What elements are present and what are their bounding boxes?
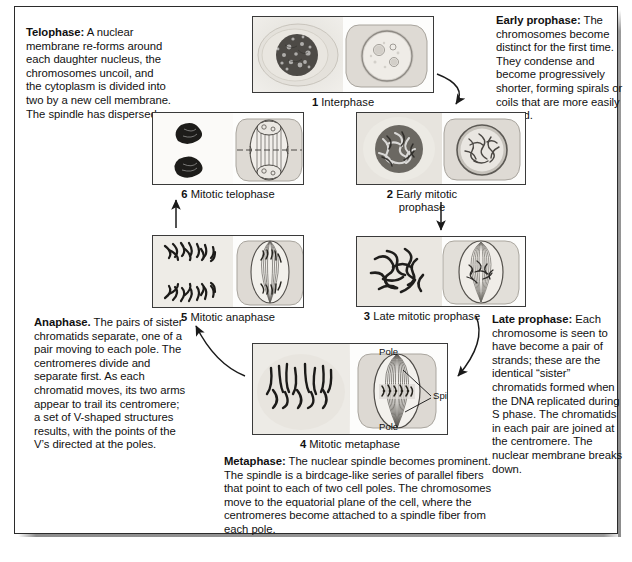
panel-6-number: 6: [181, 188, 187, 200]
label-spindle: Spindle: [433, 391, 448, 401]
panel-3-caption: 3 Late mitotic prophase: [362, 310, 482, 323]
panel-2-label: Early mitotic prophase: [396, 188, 457, 213]
panel-2-early-prophase: 2 Early mitotic prophase: [356, 112, 526, 214]
panel-6-artwork: [153, 113, 304, 185]
panel-1-label: Interphase: [321, 96, 374, 108]
panel-6-image: [152, 112, 304, 185]
text-late-prophase: Late prophase: Each chromosome is seen t…: [492, 313, 626, 476]
panel-4-image: Pole Pole Spindle: [252, 343, 448, 435]
text-anaphase: Anaphase. The pairs of sister chromatids…: [34, 316, 186, 452]
panel-6-telophase: 6 Mitotic telophase: [152, 112, 304, 201]
text-late-prophase-body: Each chromosome is seen to have become a…: [492, 313, 622, 475]
panel-5-number: 5: [181, 311, 187, 323]
panel-4-label: Mitotic metaphase: [309, 438, 400, 450]
panel-2-image: [356, 112, 526, 185]
panel-2-number: 2: [387, 188, 393, 200]
panel-4-caption: 4 Mitotic metaphase: [252, 438, 448, 451]
panel-5-caption: 5 Mitotic anaphase: [152, 311, 304, 324]
panel-2-artwork: [357, 113, 526, 185]
panel-1-artwork: [253, 17, 434, 93]
panel-3-number: 3: [364, 310, 370, 322]
text-anaphase-body: The pairs of sister chromatids separate,…: [34, 316, 185, 450]
panel-5-image: [152, 235, 304, 308]
figure-canvas: Telophase: A nuclear membrane re-forms a…: [0, 0, 632, 562]
text-metaphase-term: Metaphase:: [224, 455, 286, 467]
panel-4-number: 4: [300, 438, 306, 450]
text-telophase-body: A nuclear membrane re-forms around each …: [26, 26, 171, 120]
label-pole-top: Pole: [379, 347, 398, 357]
panel-3-label: Late mitotic prophase: [373, 310, 480, 322]
panel-5-anaphase: 5 Mitotic anaphase: [152, 235, 304, 324]
text-early-prophase-term: Early prophase:: [496, 14, 581, 26]
panel-1-image: [252, 16, 434, 93]
panel-3-image: [356, 236, 526, 307]
text-telophase: Telophase: A nuclear membrane re-forms a…: [26, 26, 172, 121]
panel-4-artwork: [253, 344, 448, 435]
panel-2-caption: 2 Early mitotic prophase: [362, 188, 482, 214]
panel-1-caption: 1 Interphase: [252, 96, 434, 109]
text-early-prophase-body: The chromosomes become distinct for the …: [496, 14, 622, 121]
panel-5-label: Mitotic anaphase: [190, 311, 275, 323]
text-early-prophase: Early prophase: The chromosomes become d…: [496, 14, 626, 123]
panel-4-metaphase: Pole Pole Spindle 4 Mitotic metaphase: [252, 343, 448, 451]
text-telophase-term: Telophase:: [26, 26, 84, 38]
panel-3-late-prophase: 3 Late mitotic prophase: [356, 236, 526, 323]
panel-1-number: 1: [312, 96, 318, 108]
panel-3-artwork: [357, 237, 526, 307]
text-anaphase-term: Anaphase.: [34, 316, 91, 328]
text-metaphase: Metaphase: The nuclear spindle becomes p…: [224, 455, 492, 537]
panel-1-interphase: 1 Interphase: [252, 16, 434, 109]
panel-5-artwork: [153, 236, 304, 308]
panel-6-caption: 6 Mitotic telophase: [152, 188, 304, 201]
label-pole-bottom: Pole: [379, 422, 398, 432]
panel-6-label: Mitotic telophase: [191, 188, 275, 200]
